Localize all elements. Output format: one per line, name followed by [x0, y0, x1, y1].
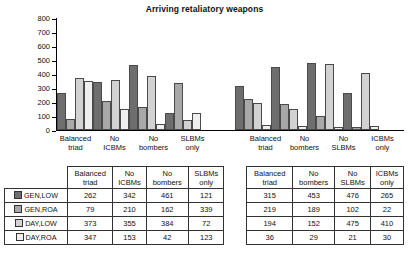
- bar-group: [343, 18, 379, 130]
- bar-group: [235, 18, 271, 130]
- table-cell: 262: [68, 189, 113, 203]
- table-cell: 339: [189, 203, 224, 217]
- bar[interactable]: [120, 109, 129, 130]
- bar[interactable]: [165, 113, 174, 130]
- legend-swatch-icon: [15, 219, 23, 227]
- table-cell: 384: [146, 217, 189, 231]
- bar-group: [57, 18, 93, 130]
- table-corner-cell: [5, 167, 68, 189]
- table-cell: 315: [247, 189, 292, 203]
- bar[interactable]: [289, 109, 298, 130]
- bar[interactable]: [192, 113, 201, 130]
- y-tick: [52, 33, 56, 34]
- table-cell: 373: [68, 217, 113, 231]
- bar-series-container: [57, 18, 404, 130]
- bar[interactable]: [271, 67, 280, 130]
- table-row: GEN,ROA7921016233921918910222: [5, 203, 404, 217]
- bar[interactable]: [262, 125, 271, 130]
- bar[interactable]: [316, 116, 325, 130]
- x-label-gap: [212, 134, 246, 158]
- table-cell: 194: [247, 217, 292, 231]
- bar[interactable]: [102, 101, 111, 130]
- bar[interactable]: [334, 127, 343, 130]
- bar[interactable]: [75, 78, 84, 130]
- table-spacer-cell: [224, 231, 247, 245]
- bar[interactable]: [307, 63, 316, 130]
- table-row: DAY,LOW37335538472194152475410: [5, 217, 404, 231]
- table-header-row: Balanced triad No ICBMs No bombers SLBMs…: [5, 167, 404, 189]
- y-tick: [52, 61, 56, 62]
- y-tick-label: 300: [37, 85, 50, 93]
- y-tick-label: 100: [37, 113, 50, 121]
- bar-group: [165, 18, 201, 130]
- bar[interactable]: [174, 83, 183, 130]
- bar[interactable]: [156, 124, 165, 130]
- bar[interactable]: [129, 65, 138, 130]
- bar[interactable]: [147, 76, 156, 130]
- x-axis: [56, 130, 404, 131]
- x-category-label: No bombers: [285, 134, 324, 158]
- group-gap: [201, 18, 235, 130]
- table-col-header: No ICBMs: [113, 167, 146, 189]
- table-col-header: Balanced triad: [247, 167, 292, 189]
- y-tick-label: 400: [37, 71, 50, 79]
- plot-area: 0100200300400500600700800: [56, 18, 404, 131]
- table-row: DAY,ROA3471534212336292130: [5, 231, 404, 245]
- legend-swatch-icon: [16, 233, 24, 241]
- legend-label-text: GEN,ROA: [24, 205, 57, 214]
- table-spacer-cell: [224, 167, 247, 189]
- table-col-header: No SLBMs: [335, 167, 370, 189]
- table-cell: 152: [292, 217, 335, 231]
- x-category-label: ICBMs only: [363, 134, 402, 158]
- legend-row-label: DAY,LOW: [5, 217, 68, 231]
- table-cell: 42: [146, 231, 189, 245]
- bar[interactable]: [235, 86, 244, 130]
- bar[interactable]: [93, 82, 102, 130]
- table-cell: 342: [113, 189, 146, 203]
- bar[interactable]: [253, 103, 262, 130]
- data-table: Balanced triad No ICBMs No bombers SLBMs…: [4, 166, 404, 245]
- legend-row-label: GEN,ROA: [5, 203, 68, 217]
- table-spacer-cell: [224, 217, 247, 231]
- bar[interactable]: [244, 99, 253, 130]
- table-col-header: No bombers: [146, 167, 189, 189]
- table-cell: 475: [335, 217, 370, 231]
- bar[interactable]: [111, 80, 120, 130]
- table-body: GEN,LOW262342461121315453476265GEN,ROA79…: [5, 189, 404, 245]
- y-tick: [52, 131, 56, 132]
- bar[interactable]: [325, 64, 334, 131]
- y-tick-label: 800: [37, 15, 50, 23]
- bar[interactable]: [57, 93, 66, 130]
- bar[interactable]: [183, 120, 192, 130]
- table-row: GEN,LOW262342461121315453476265: [5, 189, 404, 203]
- y-tick: [52, 75, 56, 76]
- bar-group: [93, 18, 129, 130]
- bar[interactable]: [370, 126, 379, 130]
- legend-row-label: GEN,LOW: [5, 189, 68, 203]
- bar-group: [307, 18, 343, 130]
- y-tick: [52, 89, 56, 90]
- bar[interactable]: [343, 93, 352, 130]
- table-cell: 36: [247, 231, 292, 245]
- bar[interactable]: [361, 73, 370, 130]
- chart-page: Arriving retaliatory weapons 01002003004…: [0, 0, 409, 255]
- bar-group: [129, 18, 165, 130]
- x-category-label: No SLBMs: [324, 134, 363, 158]
- y-tick-label: 500: [37, 57, 50, 65]
- table-cell: 153: [113, 231, 146, 245]
- y-tick: [52, 117, 56, 118]
- bar[interactable]: [138, 107, 147, 130]
- table-cell: 123: [189, 231, 224, 245]
- table-cell: 210: [113, 203, 146, 217]
- bar[interactable]: [66, 119, 75, 130]
- y-tick: [52, 19, 56, 20]
- legend-label-text: GEN,LOW: [24, 191, 58, 200]
- table-cell: 453: [292, 189, 335, 203]
- chart-title: Arriving retaliatory weapons: [0, 4, 409, 14]
- bar[interactable]: [298, 126, 307, 130]
- table-cell: 265: [370, 189, 403, 203]
- bar[interactable]: [280, 104, 289, 130]
- table-cell: 461: [146, 189, 189, 203]
- bar[interactable]: [84, 81, 93, 130]
- bar[interactable]: [352, 127, 361, 130]
